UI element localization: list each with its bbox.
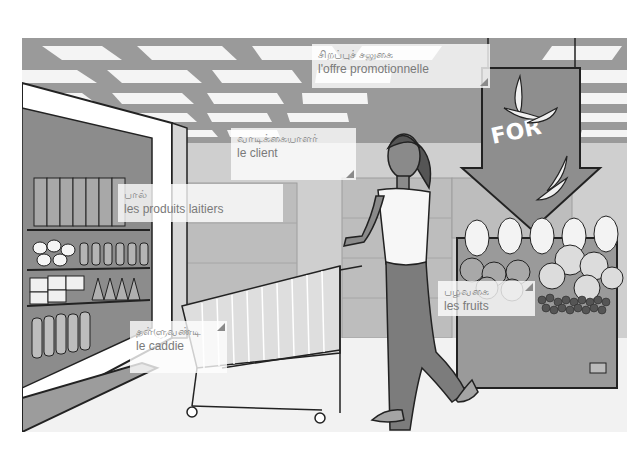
label-tamil-text: தள்ளுவண்டி [136,324,221,339]
expand-corner-icon [480,78,488,86]
label-french-text: les fruits [444,299,529,314]
label-promotional-offer[interactable]: சிறப்புச் சலுகை l'offre promotionnelle [312,44,490,88]
label-tamil-text: வாடிக்கையாளர் [237,131,350,146]
expand-corner-icon [346,170,354,178]
label-fruits[interactable]: பழவகை les fruits [438,281,535,316]
label-french-text: les produits laitiers [124,202,277,217]
scene-artwork: FOR [22,38,627,432]
label-french-text: le client [237,146,350,161]
label-dairy-products[interactable]: பால் les produits laitiers [118,184,283,222]
label-caddie[interactable]: தள்ளுவண்டி le caddie [130,321,227,373]
supermarket-illustration: FOR [22,38,627,432]
label-tamil-text: பால் [124,187,277,202]
expand-corner-icon [525,283,533,291]
label-client[interactable]: வாடிக்கையாளர் le client [231,128,356,180]
label-tamil-text: பழவகை [444,284,529,299]
label-french-text: le caddie [136,339,221,354]
expand-corner-icon [217,323,225,331]
label-french-text: l'offre promotionnelle [318,62,484,77]
label-tamil-text: சிறப்புச் சலுகை [318,47,484,62]
